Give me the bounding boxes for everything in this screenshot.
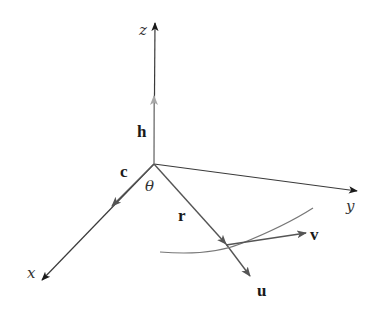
v-vector bbox=[226, 233, 306, 245]
y-axis-label: y bbox=[345, 197, 355, 215]
r-vector-label: r bbox=[178, 206, 186, 225]
c-vector-label: c bbox=[120, 162, 128, 181]
z-axis-label: z bbox=[138, 21, 147, 39]
u-vector bbox=[226, 244, 250, 276]
y-axis bbox=[154, 164, 357, 191]
u-vector-label: u bbox=[257, 281, 266, 300]
v-vector-label: v bbox=[310, 225, 319, 244]
r-vector bbox=[154, 164, 226, 244]
theta-label: θ bbox=[145, 177, 154, 195]
h-vector-label: h bbox=[137, 122, 147, 141]
x-axis-label: x bbox=[27, 264, 36, 282]
orbit-vector-diagram: z y x h c θ r u v bbox=[0, 0, 379, 320]
